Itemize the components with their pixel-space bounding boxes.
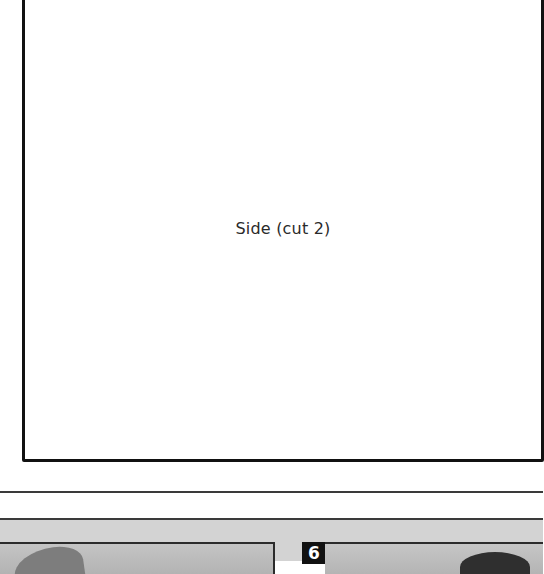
divider-rule [0,491,543,493]
pattern-piece-label: Side (cut 2) [25,219,541,238]
pattern-piece-outline: Side (cut 2) [22,0,544,462]
photo-subject-shape [460,552,530,574]
instruction-photo-strip: 6 [0,518,543,561]
step-photo-right [325,542,543,574]
photo-subject-shape [12,543,87,574]
step-number-badge: 6 [302,542,326,564]
step-photo-left [0,542,275,574]
